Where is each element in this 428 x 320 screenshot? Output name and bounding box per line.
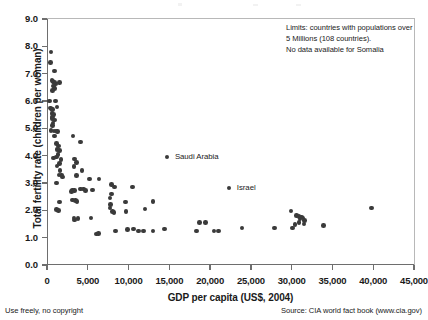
data-point	[321, 223, 326, 228]
data-point	[83, 188, 88, 193]
data-point	[197, 220, 202, 225]
y-tick-mark	[42, 210, 47, 211]
x-tick-label: 10,000	[115, 276, 143, 286]
footer-source: Source: CIA world fact book (www.cia.gov…	[281, 306, 422, 315]
data-point	[50, 123, 55, 128]
limits-annotation-line: 5 Millions (108 countries).	[286, 33, 412, 44]
data-point	[290, 226, 295, 231]
x-tick-mark	[291, 265, 292, 270]
data-point	[113, 229, 118, 234]
x-tick-label: 0	[44, 276, 49, 286]
data-point	[216, 229, 221, 234]
data-point	[123, 200, 128, 205]
data-point	[72, 164, 77, 169]
point-label-saudi-arabia: Saudi Arabia	[175, 153, 219, 161]
data-point	[69, 189, 74, 194]
x-tick-label: 45,000	[400, 276, 428, 286]
limits-annotation-line: No data available for Somalia	[286, 44, 412, 55]
data-point	[131, 227, 136, 232]
x-tick-mark	[209, 265, 210, 270]
x-tick-label: 15,000	[155, 276, 183, 286]
y-tick-mark	[42, 182, 47, 183]
data-point	[136, 229, 141, 234]
data-point	[60, 175, 65, 180]
x-tick-mark	[413, 265, 414, 270]
footer-copyright: Use freely, no copyright	[5, 306, 83, 315]
data-point	[74, 173, 79, 178]
y-axis-title: Total fertility rate (children per woman…	[32, 16, 43, 262]
data-point	[151, 199, 156, 204]
x-tick-label: 20,000	[196, 276, 224, 286]
x-tick-mark	[332, 265, 333, 270]
x-tick-mark	[169, 265, 170, 270]
y-tick-mark	[42, 128, 47, 129]
scan-artifact	[253, 4, 258, 6]
data-point	[87, 177, 92, 182]
x-axis-title: GDP per capita (US$, 2004)	[47, 292, 414, 303]
data-point	[54, 181, 59, 186]
x-tick-label: 25,000	[237, 276, 265, 286]
data-point	[96, 231, 101, 236]
data-point	[112, 210, 117, 215]
scan-antifact	[296, 4, 301, 6]
x-tick-mark	[46, 265, 47, 270]
data-point	[203, 220, 208, 225]
data-point	[53, 99, 58, 104]
x-tick-mark	[87, 265, 88, 270]
point-label-israel: Israel	[237, 184, 256, 192]
data-point	[57, 80, 62, 85]
x-tick-mark	[373, 265, 374, 270]
data-point	[194, 229, 199, 234]
y-tick-mark	[42, 18, 47, 19]
data-point	[51, 156, 56, 161]
x-tick-mark	[250, 265, 251, 270]
x-tick-label: 35,000	[319, 276, 347, 286]
data-point	[48, 60, 53, 65]
y-tick-mark	[42, 46, 47, 47]
plot-right-border	[414, 19, 415, 266]
data-point	[47, 99, 52, 104]
data-point	[162, 227, 167, 232]
y-tick-mark	[42, 73, 47, 74]
plot-area	[47, 19, 414, 265]
y-tick-mark	[42, 237, 47, 238]
x-tick-label: 5,000	[76, 276, 99, 286]
scan-artifact	[178, 3, 182, 6]
y-tick-mark	[42, 155, 47, 156]
data-point	[56, 208, 61, 213]
x-tick-label: 30,000	[278, 276, 306, 286]
data-point	[76, 216, 81, 221]
data-point	[141, 229, 146, 234]
data-point	[90, 188, 95, 193]
data-point	[57, 200, 62, 205]
data-point	[50, 88, 55, 93]
limits-annotation-line: Limits: countries with populations over	[286, 22, 412, 33]
data-point	[78, 140, 83, 145]
x-tick-mark	[128, 265, 129, 270]
data-point	[55, 129, 60, 134]
x-tick-label: 40,000	[359, 276, 387, 286]
data-point	[52, 69, 57, 74]
data-point	[125, 227, 130, 232]
limits-annotation: Limits: countries with populations over5…	[286, 22, 412, 55]
